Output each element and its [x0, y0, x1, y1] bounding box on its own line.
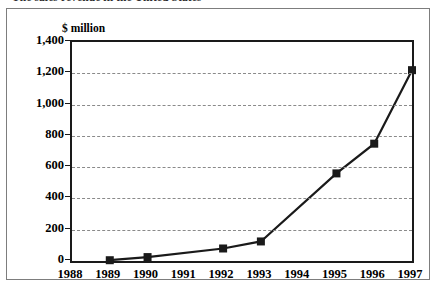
y-axis-unit-label: $ million [62, 22, 105, 34]
y-axis-tick-mark [65, 40, 70, 41]
data-series-line [72, 42, 412, 261]
y-axis-tick-mark [65, 71, 70, 72]
y-axis-tick-label: 1,400 [4, 33, 64, 48]
y-axis-tick-label: 800 [4, 126, 64, 141]
y-axis-tick-mark [65, 228, 70, 229]
chart-caption: The sales revenue in the United States [12, 0, 424, 4]
gridline-200 [72, 230, 412, 231]
y-axis-tick-label: 200 [4, 220, 64, 235]
data-point-marker [219, 244, 227, 252]
data-point-marker [370, 140, 378, 148]
data-point-marker [106, 256, 114, 264]
y-axis-tick-mark [65, 103, 70, 104]
gridline-400 [72, 198, 412, 199]
data-point-marker [257, 237, 265, 245]
y-axis-tick-label: 1,200 [4, 64, 64, 79]
plot-inner [72, 42, 412, 261]
series-line [110, 70, 412, 260]
gridline-800 [72, 136, 412, 137]
y-axis-tick-label: 400 [4, 189, 64, 204]
y-axis-tick-mark [65, 134, 70, 135]
y-axis-tick-mark [65, 259, 70, 260]
y-axis-tick-mark [65, 196, 70, 197]
plot-area [70, 40, 414, 263]
y-axis-tick-mark [65, 165, 70, 166]
y-axis-tick-label: 0 [4, 252, 64, 267]
y-axis-tick-label: 1,000 [4, 95, 64, 110]
data-point-marker [332, 169, 340, 177]
x-axis-tick-label: 1997 [384, 267, 436, 282]
gridline-1000 [72, 105, 412, 106]
chart-figure: The sales revenue in the United States $… [0, 0, 436, 286]
gridline-1200 [72, 73, 412, 74]
y-axis-tick-label: 600 [4, 158, 64, 173]
data-point-marker [144, 253, 152, 261]
gridline-600 [72, 167, 412, 168]
